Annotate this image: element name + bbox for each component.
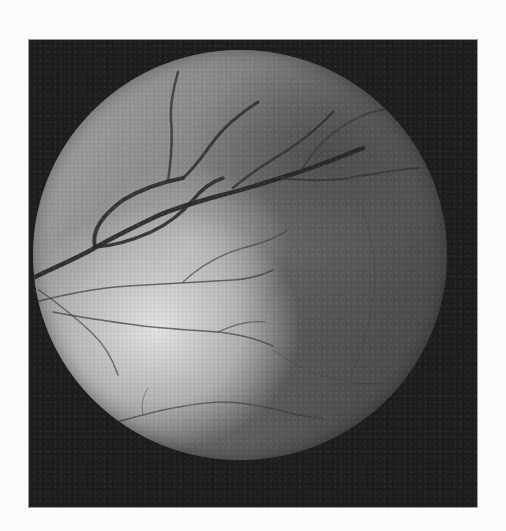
fundus-disc [33, 50, 447, 460]
fundus-photo-frame [29, 40, 477, 507]
retinal-vessels [33, 50, 447, 460]
page [0, 0, 506, 531]
